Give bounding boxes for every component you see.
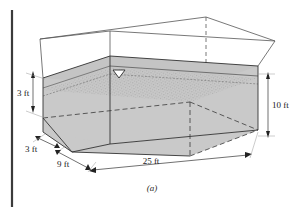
dimension-label-width: 9 ft [57, 159, 70, 169]
figure-container: 3 ft 3 ft 9 ft 25 ft [0, 0, 292, 207]
dimension-label-length: 25 ft [143, 156, 160, 166]
excavation-diagram-svg: 3 ft 3 ft 9 ft 25 ft [0, 0, 292, 207]
figure-caption: (a) [147, 183, 158, 193]
dimension-label-depth-to-water: 3 ft [17, 88, 30, 98]
dimension-label-depth: 10 ft [272, 100, 289, 110]
dimension-label-berm-height: 3 ft [25, 144, 38, 154]
